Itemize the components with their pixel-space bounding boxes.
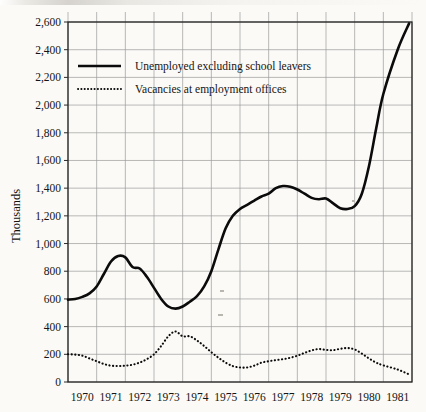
y-axis-title: Thousands <box>9 189 23 243</box>
x-tick-label: 1972 <box>128 391 151 403</box>
y-tick-label: 600 <box>44 293 62 305</box>
x-axis-tick-labels: 1970197119721973197419751976197719781979… <box>71 391 410 403</box>
scan-speck <box>220 290 224 292</box>
scan-artifact-top-edge <box>0 0 426 5</box>
x-tick-label: 1971 <box>100 391 123 403</box>
y-tick-label: 1,000 <box>35 238 61 251</box>
series-line-2 <box>68 331 409 374</box>
line-chart: 02004006008001,0001,2001,4001,6001,8002,… <box>0 0 426 412</box>
y-tick-label: 2,200 <box>35 71 61 84</box>
x-tick-label: 1978 <box>300 391 323 403</box>
y-axis-tick-labels: 02004006008001,0001,2001,4001,6001,8002,… <box>35 16 61 388</box>
x-tick-label: 1970 <box>71 391 94 403</box>
x-tick-label: 1977 <box>272 391 295 403</box>
y-tick-label: 1,600 <box>35 154 61 167</box>
y-axis-title-text: Thousands <box>9 189 23 243</box>
y-tick-label: 2,600 <box>35 16 61 29</box>
chart-legend: Unemployed excluding school leaversVacan… <box>78 60 311 96</box>
x-tick-label: 1974 <box>186 391 209 403</box>
y-tick-label: 1,800 <box>35 127 61 140</box>
y-tick-label: 1,400 <box>35 182 61 195</box>
y-tick-label: 400 <box>44 321 62 333</box>
x-tick-label: 1973 <box>157 391 180 403</box>
y-tick-label: 1,200 <box>35 210 61 223</box>
y-tick-label: 0 <box>55 376 61 388</box>
x-tick-label: 1975 <box>214 391 237 403</box>
y-tick-label: 2,400 <box>35 44 61 57</box>
chart-figure: 02004006008001,0001,2001,4001,6001,8002,… <box>0 0 426 412</box>
x-tick-label: 1976 <box>243 391 266 403</box>
data-series <box>68 23 409 374</box>
legend-label-2: Vacancies at employment offices <box>135 83 287 96</box>
scan-speck <box>218 314 223 316</box>
legend-label-1: Unemployed excluding school leavers <box>135 60 311 73</box>
y-tick-label: 800 <box>44 265 62 277</box>
y-tick-label: 200 <box>44 348 62 360</box>
x-tick-label: 1980 <box>358 391 381 403</box>
x-tick-label: 1981 <box>386 391 409 403</box>
x-tick-label: 1979 <box>329 391 352 403</box>
scan-speck <box>352 200 355 202</box>
y-tick-label: 2,000 <box>35 99 61 112</box>
